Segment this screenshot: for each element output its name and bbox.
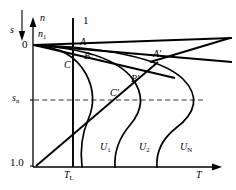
curve-label-U1-sub: 1 xyxy=(107,146,110,153)
n-axis-arrowhead xyxy=(30,17,37,27)
curve-label-UN: UN xyxy=(180,142,192,154)
horizontal-axis xyxy=(33,164,222,171)
s-axis-arrow xyxy=(19,10,25,41)
point-label-B-prime: B′ xyxy=(131,74,139,84)
point-label-A: A xyxy=(80,37,86,47)
axis-label-s: s xyxy=(10,25,14,35)
curve-U2 xyxy=(34,45,140,167)
label-sn-sub: n xyxy=(16,97,19,104)
curve-label-U2: U2 xyxy=(139,142,150,154)
label-n1: n1 xyxy=(38,29,46,41)
point-label-B: B xyxy=(84,51,90,61)
label-slip-one-top: 1 xyxy=(83,15,89,26)
point-label-C: C xyxy=(64,60,71,70)
axis-label-n: n xyxy=(40,13,45,23)
label-slip-one-point-zero: 1.0 xyxy=(10,157,24,168)
curve-label-U1: U1 xyxy=(100,142,111,154)
point-label-A-prime: A′ xyxy=(153,49,161,59)
curve-label-U2-sub: 2 xyxy=(146,146,149,153)
label-n1-sub: 1 xyxy=(43,33,46,40)
characteristic-line-A xyxy=(34,38,232,45)
figure-canvas: s n n1 0 1 sn 1.0 TL T A B C A′ B′ C′ U1… xyxy=(0,0,236,190)
label-load-torque-TL: TL xyxy=(64,170,74,182)
label-TL-sub: L xyxy=(70,174,74,181)
axis-label-T: T xyxy=(196,170,202,180)
point-label-C-prime: C′ xyxy=(110,88,119,98)
curve-label-UN-sub: N xyxy=(187,146,192,153)
label-origin-zero: 0 xyxy=(22,39,28,50)
label-rated-slip-sn: sn xyxy=(12,93,19,105)
t-axis-arrowhead xyxy=(212,164,222,171)
vertical-axis xyxy=(30,17,37,167)
